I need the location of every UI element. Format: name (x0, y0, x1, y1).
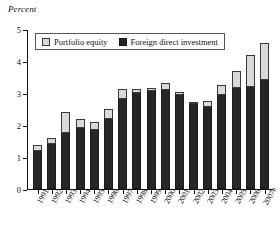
y-tick-label: 0 (17, 185, 21, 195)
x-tick-label-cell: 2005 (232, 194, 241, 228)
bar-column[interactable] (232, 30, 241, 189)
bar-segment-portfolio-equity[interactable] (246, 55, 255, 87)
bar-column[interactable] (47, 30, 56, 189)
x-tick-label-cell: 1995 (90, 194, 99, 228)
bar-column[interactable] (90, 30, 99, 189)
y-tick-mark (23, 94, 27, 95)
x-tick-label-cell: 1999 (147, 194, 156, 228)
bar-segment-foreign-direct-investment[interactable] (232, 88, 241, 189)
x-tick-label-cell: 2004 (217, 194, 226, 228)
bar-column[interactable] (175, 30, 184, 189)
bar-segment-portfolio-equity[interactable] (90, 122, 99, 130)
legend-item-foreign-direct-investment: Foreign direct investment (119, 37, 218, 47)
bar-column[interactable] (33, 30, 42, 189)
bar-segment-foreign-direct-investment[interactable] (90, 130, 99, 189)
x-tick-label-cell: 1993 (61, 194, 70, 228)
x-tick-label-cell: 2003 (203, 194, 212, 228)
bar-column[interactable] (203, 30, 212, 189)
bar-segment-foreign-direct-investment[interactable] (33, 151, 42, 189)
y-axis-title: Percent (8, 4, 36, 14)
bar-segment-portfolio-equity[interactable] (76, 119, 85, 128)
bar-column[interactable] (61, 30, 70, 189)
bar-column[interactable] (246, 30, 255, 189)
bar-segment-foreign-direct-investment[interactable] (161, 90, 170, 189)
bar-column[interactable] (76, 30, 85, 189)
x-tick-label-cell: 1997 (118, 194, 127, 228)
y-tick-label: 5 (17, 25, 21, 35)
x-tick-label-cell: 1994 (76, 194, 85, 228)
legend-item-portfolio-equity: Portfolio equity (42, 37, 108, 47)
y-tick-label: 2 (17, 121, 21, 131)
bar-column[interactable] (147, 30, 156, 189)
bar-segment-foreign-direct-investment[interactable] (260, 80, 269, 189)
bar-column[interactable] (217, 30, 226, 189)
plot-area: 012345 (27, 30, 273, 190)
x-tick-label-cell: 2002 (189, 194, 198, 228)
y-tick-mark (23, 126, 27, 127)
bar-segment-foreign-direct-investment[interactable] (47, 144, 56, 189)
x-tick-label-cell: 2007e (260, 194, 269, 228)
bar-segment-foreign-direct-investment[interactable] (189, 104, 198, 189)
bar-segment-portfolio-equity[interactable] (232, 71, 241, 89)
bar-segment-foreign-direct-investment[interactable] (203, 107, 212, 189)
x-axis-labels: 1991199219931994199519961997199819992000… (28, 194, 273, 228)
x-tick-label-cell: 2001 (175, 194, 184, 228)
legend-label-portfolio-equity: Portfolio equity (54, 37, 108, 47)
y-tick-label: 3 (17, 89, 21, 99)
x-tick-label-cell: 1991 (33, 194, 42, 228)
y-tick-mark (23, 190, 27, 191)
foreign-direct-investment-swatch-icon (119, 38, 127, 46)
bar-series-layer (28, 30, 273, 189)
bar-column[interactable] (118, 30, 127, 189)
y-tick-label: 4 (17, 57, 21, 67)
y-tick-label: 1 (17, 153, 21, 163)
bar-column[interactable] (132, 30, 141, 189)
bar-segment-portfolio-equity[interactable] (61, 112, 70, 133)
bar-segment-foreign-direct-investment[interactable] (175, 95, 184, 189)
bar-segment-portfolio-equity[interactable] (104, 109, 113, 119)
bar-segment-foreign-direct-investment[interactable] (104, 119, 113, 189)
bar-segment-foreign-direct-investment[interactable] (76, 128, 85, 189)
x-tick-label-cell: 2006 (246, 194, 255, 228)
y-tick-mark (23, 62, 27, 63)
bar-column[interactable] (260, 30, 269, 189)
bar-segment-portfolio-equity[interactable] (118, 89, 127, 99)
x-tick-label-cell: 1996 (104, 194, 113, 228)
x-tick-label-cell: 1992 (47, 194, 56, 228)
legend-label-foreign-direct-investment: Foreign direct investment (131, 37, 218, 47)
bar-segment-foreign-direct-investment[interactable] (118, 99, 127, 189)
bar-column[interactable] (189, 30, 198, 189)
x-tick-label-cell: 1998 (132, 194, 141, 228)
bar-segment-portfolio-equity[interactable] (260, 43, 269, 80)
portfolio-equity-swatch-icon (42, 38, 50, 46)
bar-segment-foreign-direct-investment[interactable] (246, 87, 255, 189)
bar-segment-foreign-direct-investment[interactable] (61, 133, 70, 189)
bar-segment-foreign-direct-investment[interactable] (217, 95, 226, 189)
bar-segment-foreign-direct-investment[interactable] (132, 93, 141, 189)
bar-segment-foreign-direct-investment[interactable] (147, 91, 156, 189)
chart-figure: Percent 012345 1991199219931994199519961… (0, 0, 280, 229)
chart-legend: Portfolio equity Foreign direct investme… (35, 33, 225, 50)
bar-column[interactable] (161, 30, 170, 189)
y-tick-mark (23, 158, 27, 159)
bar-segment-portfolio-equity[interactable] (217, 85, 226, 95)
x-tick-label-cell: 2000 (161, 194, 170, 228)
bar-column[interactable] (104, 30, 113, 189)
y-tick-mark (23, 30, 27, 31)
